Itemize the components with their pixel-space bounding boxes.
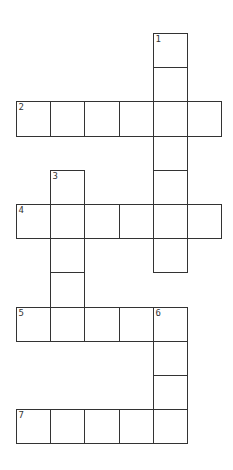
crossword-cell[interactable] bbox=[84, 307, 120, 342]
crossword-grid: 1234567 bbox=[0, 0, 233, 470]
crossword-cell[interactable] bbox=[187, 204, 222, 239]
crossword-cell[interactable]: 6 bbox=[153, 307, 188, 342]
crossword-cell[interactable] bbox=[153, 136, 188, 171]
clue-number: 7 bbox=[19, 410, 24, 420]
clue-number: 1 bbox=[156, 34, 161, 44]
crossword-cell[interactable] bbox=[84, 409, 120, 444]
crossword-cell[interactable] bbox=[119, 307, 154, 342]
crossword-cell[interactable] bbox=[50, 101, 85, 137]
crossword-cell[interactable] bbox=[153, 409, 188, 444]
crossword-cell[interactable] bbox=[153, 67, 188, 102]
crossword-cell[interactable] bbox=[153, 238, 188, 273]
crossword-cell[interactable] bbox=[50, 409, 85, 444]
crossword-cell[interactable]: 3 bbox=[50, 170, 85, 205]
clue-number: 3 bbox=[53, 171, 58, 181]
crossword-cell[interactable] bbox=[50, 238, 85, 273]
crossword-cell[interactable] bbox=[119, 101, 154, 137]
crossword-cell[interactable] bbox=[84, 101, 120, 137]
crossword-cell[interactable]: 2 bbox=[16, 101, 51, 137]
crossword-cell[interactable] bbox=[153, 341, 188, 376]
crossword-cell[interactable] bbox=[50, 307, 85, 342]
crossword-cell[interactable] bbox=[84, 204, 120, 239]
crossword-cell[interactable]: 5 bbox=[16, 307, 51, 342]
clue-number: 2 bbox=[19, 102, 24, 112]
crossword-cell[interactable] bbox=[119, 409, 154, 444]
crossword-cell[interactable] bbox=[50, 272, 85, 308]
crossword-cell[interactable] bbox=[187, 101, 222, 137]
clue-number: 5 bbox=[19, 308, 24, 318]
crossword-cell[interactable] bbox=[153, 170, 188, 205]
crossword-cell[interactable]: 1 bbox=[153, 33, 188, 68]
crossword-cell[interactable]: 7 bbox=[16, 409, 51, 444]
crossword-cell[interactable]: 4 bbox=[16, 204, 51, 239]
clue-number: 4 bbox=[19, 205, 24, 215]
crossword-cell[interactable] bbox=[50, 204, 85, 239]
clue-number: 6 bbox=[156, 308, 161, 318]
crossword-cell[interactable] bbox=[153, 101, 188, 137]
crossword-cell[interactable] bbox=[153, 375, 188, 410]
crossword-cell[interactable] bbox=[119, 204, 154, 239]
crossword-cell[interactable] bbox=[153, 204, 188, 239]
